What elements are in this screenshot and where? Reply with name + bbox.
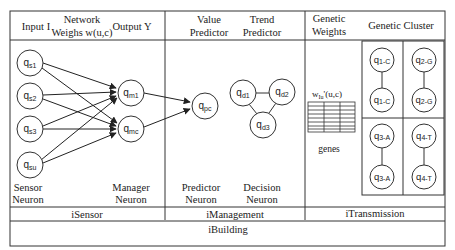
network-weights-label-line2: Weighs w(u,c): [52, 27, 113, 39]
itransmission-layer-label: iTransmission: [345, 208, 405, 219]
edge-s1-mc: [42, 68, 117, 123]
isensor-header: Input I Network Weighs w(u,c) Output Y: [22, 14, 152, 39]
sensor-node-s2: qs2: [17, 83, 43, 109]
manager-to-predictor-edges: [144, 93, 190, 127]
edge-s2-m1: [43, 92, 116, 95]
cluster-3-top-node: q3-A: [370, 124, 394, 148]
trend-predictor-line1: Trend: [250, 14, 275, 25]
decision-neurons: qd1 qd2 qd3: [230, 79, 295, 138]
sensor-caption-line1: Sensor: [14, 182, 43, 193]
cluster-3-bottom-node: q3-A: [370, 165, 394, 189]
ibuilding-layer-label: iBuilding: [208, 224, 248, 235]
edge-mc-pc: [144, 109, 190, 127]
imanagement-layer-label: iManagement: [206, 209, 264, 220]
sensor-to-manager-edges: [41, 63, 117, 163]
edge-d1-d3: [249, 104, 257, 114]
genes-table-icon: [308, 102, 355, 132]
manager-node-mc: qmc: [118, 116, 144, 142]
genetic-weights-line2: Weights: [312, 26, 346, 37]
manager-caption-line1: Manager: [112, 182, 150, 193]
sensor-node-su: qsu: [17, 152, 43, 178]
manager-caption-line2: Neuron: [115, 194, 147, 205]
cluster-2-bottom-node: q2-G: [412, 88, 436, 112]
edge-m1-pc: [144, 93, 190, 102]
trend-predictor-line2: Predictor: [243, 27, 282, 38]
decision-node-d1: qd1: [230, 80, 256, 106]
edge-su-mc: [43, 133, 116, 163]
predictor-node-pc: qpc: [192, 93, 218, 119]
decision-caption-line1: Decision: [243, 182, 281, 193]
decision-node-d3: qd3: [250, 112, 276, 138]
input-label: Input I: [22, 21, 51, 32]
sensor-node-s3: qs3: [17, 116, 43, 142]
sensor-node-s1: qs1: [17, 50, 43, 76]
edge-s1-m1: [43, 63, 116, 88]
weights-formula: wIu'(u,c): [312, 89, 342, 100]
genetic-weights: wIu'(u,c) genes: [308, 89, 355, 154]
output-label: Output Y: [113, 21, 152, 32]
itransmission-header: Genetic Weights Genetic Cluster: [312, 13, 434, 37]
cluster-4-top-node: q4-T: [412, 124, 436, 148]
sensor-neurons: qs1 qs2 qs3 qsu: [17, 50, 43, 178]
cluster-1-top-node: q1-C: [370, 48, 394, 72]
predictor-caption-line2: Neuron: [185, 194, 217, 205]
cluster-1-bottom-node: q1-C: [370, 88, 394, 112]
genetic-cluster-label: Genetic Cluster: [368, 20, 434, 31]
genetic-weights-line1: Genetic: [313, 13, 346, 24]
imanagement-header: Value Predictor Trend Predictor: [190, 14, 282, 38]
cluster-4-bottom-node: q4-T: [412, 165, 436, 189]
value-predictor-line1: Value: [197, 14, 221, 25]
sensor-caption-line2: Neuron: [12, 194, 44, 205]
edge-d2-d3: [269, 103, 276, 113]
network-weights-label-line1: Network: [64, 14, 101, 25]
manager-node-m1: qm1: [118, 80, 144, 106]
value-predictor-line2: Predictor: [190, 27, 229, 38]
predictor-caption-line1: Predictor: [182, 182, 221, 193]
isensor-layer-label: iSensor: [71, 209, 103, 220]
manager-neurons: qm1 qmc: [118, 80, 144, 142]
decision-node-d2: qd2: [269, 79, 295, 105]
decision-caption-line2: Neuron: [246, 194, 278, 205]
genes-label: genes: [318, 144, 340, 154]
cluster-2-top-node: q2-G: [412, 48, 436, 72]
ibuilding-architecture-diagram: Input I Network Weighs w(u,c) Output Y V…: [0, 0, 455, 250]
